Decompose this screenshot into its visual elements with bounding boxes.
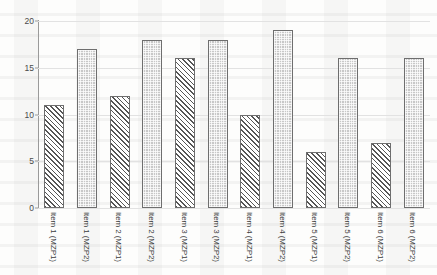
x-axis-tick-label: Item 3 (MZP1) (180, 212, 189, 262)
x-axis-tick-label: Item 4 (MZP2) (278, 212, 287, 262)
bar (208, 40, 228, 208)
x-axis-tick-label: Item 2 (MZP2) (147, 212, 156, 262)
bar (240, 115, 260, 209)
bar (273, 30, 293, 208)
bar (77, 49, 97, 208)
x-axis-tick-label: Item 2 (MZP1) (114, 212, 123, 262)
plot-area (38, 21, 430, 208)
x-axis-tick-label: Item 5 (MZP1) (310, 212, 319, 262)
x-axis-tick-label: Item 4 (MZP1) (245, 212, 254, 262)
y-axis-tick-label: 5 (29, 156, 34, 166)
x-axis-tick-label: Item 5 (MZP2) (343, 212, 352, 262)
bar (44, 105, 64, 208)
x-axis-tick-label: Item 6 (MZP2) (408, 212, 417, 262)
y-axis-tick-group: 05101520 (0, 0, 34, 275)
y-axis-tick-label: 10 (25, 110, 34, 120)
x-axis-tick-label: Item 6 (MZP1) (376, 212, 385, 262)
gridline (38, 208, 430, 209)
y-axis-tick-label: 15 (25, 63, 34, 73)
x-axis-tick-label: Item 1 (MZP1) (49, 212, 58, 262)
y-axis-tick-label: 0 (29, 203, 34, 213)
bar-chart-figure: 05101520 Item 1 (MZP1)Item 1 (MZP2)Item … (0, 0, 437, 275)
x-axis-tick-label: Item 1 (MZP2) (82, 212, 91, 262)
x-axis-tick-label: Item 3 (MZP2) (212, 212, 221, 262)
bar (404, 58, 424, 208)
bar (371, 143, 391, 208)
bar (175, 58, 195, 208)
bar (110, 96, 130, 208)
bar (306, 152, 326, 208)
bar (338, 58, 358, 208)
bar (142, 40, 162, 208)
gridline (38, 21, 430, 22)
y-axis-tick-label: 20 (25, 16, 34, 26)
